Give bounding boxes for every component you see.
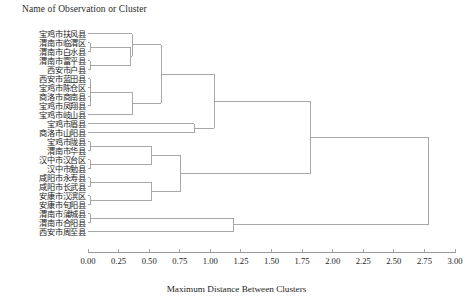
- axis-tick-label: 1.00: [203, 256, 218, 266]
- axis-tick-label: 1.50: [264, 256, 279, 266]
- axis-tick-label: 2.50: [386, 256, 401, 266]
- axis-tick-label: 0.25: [111, 256, 126, 266]
- axis-tick-label: 2.75: [417, 256, 432, 266]
- axis-tick-label: 3.00: [447, 256, 462, 266]
- axis-tick-label: 1.25: [233, 256, 248, 266]
- axis-tick-label: 0.50: [142, 256, 157, 266]
- axis-tick-label: 0.75: [172, 256, 187, 266]
- axis-tick-label: 2.00: [325, 256, 340, 266]
- axis-title: Maximum Distance Between Clusters: [0, 284, 473, 294]
- axis-tick-label: 2.25: [356, 256, 371, 266]
- dendrogram-figure: Name of Observation or Cluster 宝鸡市扶风县渭南市…: [0, 0, 473, 304]
- axis-tick-label: 0.00: [80, 256, 95, 266]
- axis-tick-label: 1.75: [295, 256, 310, 266]
